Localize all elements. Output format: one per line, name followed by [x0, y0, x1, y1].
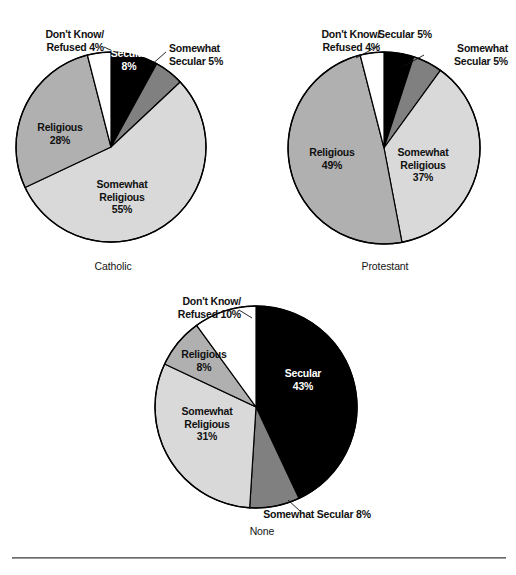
slice-label-catholic-somewhat-secular: Somewhat Secular 5%: [169, 42, 253, 67]
chart-caption-none: None: [212, 525, 312, 537]
slice-label-protestant-secular: Secular 5%: [370, 28, 440, 41]
slice-label-none-religious: Religious 8%: [173, 348, 235, 373]
slice-label-none-somewhat-religious: Somewhat Religious 31%: [168, 405, 246, 443]
slice-label-protestant-dont-know: Don't Know/ Refused 4%: [288, 28, 380, 53]
chart-caption-catholic: Catholic: [63, 260, 163, 272]
slice-label-catholic-secular: Secular 8%: [98, 47, 160, 72]
slice-label-protestant-somewhat-religious: Somewhat Religious 37%: [383, 146, 463, 184]
slice-label-protestant-religious: Religious 49%: [300, 146, 364, 171]
chart-caption-protestant: Protestant: [335, 260, 435, 272]
pie-charts-canvas: [0, 0, 516, 575]
pie-chart-figure: Don't Know/ Refused 4% Secular 8% Somewh…: [0, 0, 516, 575]
slice-label-none-dont-know: Don't Know/ Refused 10%: [142, 295, 241, 320]
footer-divider-rule: [12, 557, 506, 559]
slice-label-catholic-dont-know: Don't Know/ Refused 4%: [12, 28, 104, 53]
slice-label-catholic-somewhat-religious: Somewhat Religious 55%: [83, 178, 161, 216]
slice-label-protestant-somewhat-secular: Somewhat Secular 5%: [422, 42, 508, 67]
slice-label-none-somewhat-secular: Somewhat Secular 8%: [253, 508, 381, 521]
slice-label-catholic-religious: Religious 28%: [29, 121, 91, 146]
slice-label-none-secular: Secular 43%: [272, 367, 334, 392]
